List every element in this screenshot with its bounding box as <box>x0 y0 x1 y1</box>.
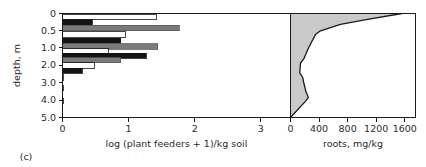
figure-caption: (c) <box>20 151 33 162</box>
bar-series-black-4 <box>63 38 121 43</box>
bar-series-white-0 <box>63 14 157 19</box>
plant-feeders-tick-label-0: 0 <box>59 123 65 134</box>
plant-feeders-tick-label-3: 3 <box>258 123 264 134</box>
roots-tick-label-1600: 1600 <box>393 123 417 134</box>
depth-tick-label-0: 0 <box>50 8 56 19</box>
depth-tick-label-5.0: 5.0 <box>41 112 56 123</box>
bar-series-gray-2 <box>63 25 180 30</box>
roots-tick-label-0: 0 <box>287 123 293 134</box>
roots-tick-label-800: 800 <box>339 123 357 134</box>
bar-series-white-9 <box>63 63 95 68</box>
roots-tick-label-400: 400 <box>310 123 328 134</box>
plant-feeders-tick-label-1: 1 <box>126 123 132 134</box>
depth-tick-label-2.0: 2.0 <box>41 59 56 70</box>
figure-container: 00.51.02.03.04.05.0depth, m0123log (plan… <box>0 0 426 167</box>
depth-tick-label-4.0: 4.0 <box>41 94 56 105</box>
plant-feeders-tick-label-2: 2 <box>192 123 198 134</box>
bar-series-gray-8 <box>63 58 121 63</box>
bar-series-white-3 <box>63 32 126 37</box>
depth-tick-label-3.0: 3.0 <box>41 77 56 88</box>
depth-tick-label-1.0: 1.0 <box>41 42 56 53</box>
roots-tick-label-1200: 1200 <box>364 123 388 134</box>
plant-feeders-axis-title: log (plant feeders + 1)/kg soil <box>106 138 248 149</box>
depth-axis-title: depth, m <box>11 44 22 87</box>
bar-series-black-1 <box>63 20 93 25</box>
roots-axis-title: roots, mg/kg <box>323 138 383 149</box>
scientific-figure: 00.51.02.03.04.05.0depth, m0123log (plan… <box>0 0 426 167</box>
bar-series-black-10 <box>63 68 83 73</box>
depth-tick-label-0.5: 0.5 <box>41 25 56 36</box>
